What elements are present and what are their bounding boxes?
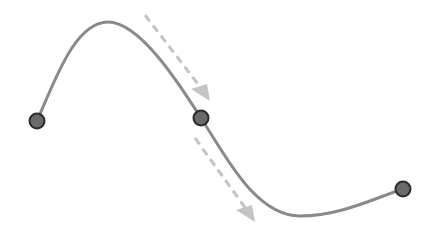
arrow-tangent-out bbox=[195, 138, 255, 222]
spline-curve bbox=[37, 22, 403, 216]
control-point-p3 bbox=[396, 182, 411, 197]
diagram-canvas bbox=[0, 0, 436, 234]
arrow-tangent-in bbox=[145, 15, 210, 101]
control-points bbox=[30, 111, 411, 197]
spline-diagram bbox=[0, 0, 436, 234]
arrowhead-icon bbox=[236, 205, 255, 222]
arrowhead-icon bbox=[191, 84, 210, 101]
control-point-p2 bbox=[194, 111, 209, 126]
control-point-p1 bbox=[30, 114, 45, 129]
